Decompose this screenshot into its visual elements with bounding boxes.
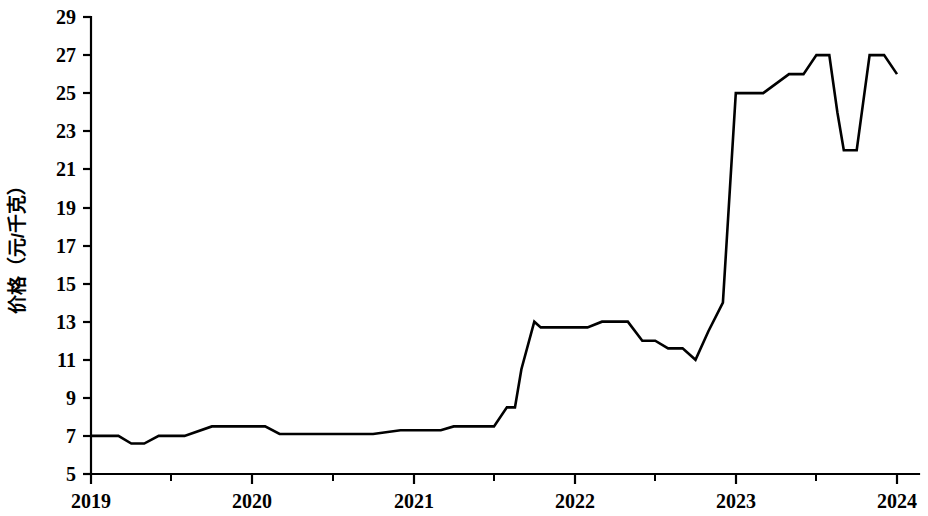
y-tick-label: 21 (56, 158, 76, 180)
y-tick-label: 25 (56, 82, 76, 104)
y-tick-label: 23 (56, 120, 76, 142)
y-tick-label: 29 (56, 6, 76, 28)
y-tick-label: 17 (56, 235, 76, 257)
y-tick-label: 19 (56, 197, 76, 219)
x-tick-label: 2024 (877, 490, 917, 512)
chart-canvas: 29 27 25 23 21 19 17 15 13 11 9 7 5 (0, 0, 928, 516)
y-tick-label: 7 (66, 425, 76, 447)
x-tick-label: 2020 (232, 490, 272, 512)
y-tick-label: 9 (66, 387, 76, 409)
x-axis-tick-labels: 2019 2020 2021 2022 2023 2024 (71, 490, 917, 512)
y-tick-label: 11 (57, 349, 76, 371)
y-tick-label: 15 (56, 273, 76, 295)
y-tick-label: 27 (56, 44, 76, 66)
x-tick-label: 2021 (394, 490, 434, 512)
x-tick-label: 2019 (71, 490, 111, 512)
line-chart: 29 27 25 23 21 19 17 15 13 11 9 7 5 (0, 0, 928, 516)
y-axis-tick-labels: 29 27 25 23 21 19 17 15 13 11 9 7 5 (56, 6, 76, 485)
price-series-line (91, 55, 897, 443)
y-tick-label: 5 (66, 463, 76, 485)
y-tick-label: 13 (56, 311, 76, 333)
y-axis-title: 价格（元/千克） (6, 176, 28, 314)
x-tick-label: 2023 (716, 490, 756, 512)
y-axis-ticks (83, 17, 91, 474)
x-tick-label: 2022 (555, 490, 595, 512)
